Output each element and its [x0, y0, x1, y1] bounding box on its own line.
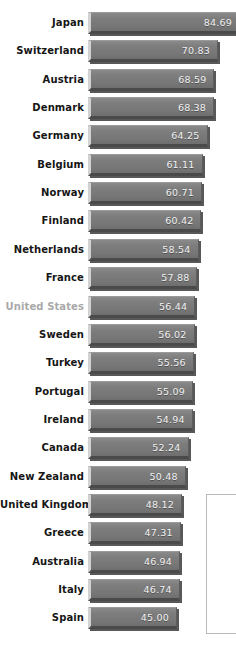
bar-row: Japan84.69	[0, 12, 236, 34]
bar-category-label: Canada	[0, 437, 84, 459]
bar: 58.54	[88, 239, 199, 261]
bar-fill: 55.56	[88, 352, 194, 374]
bar-value-label: 68.59	[178, 70, 206, 88]
bar-fill: 60.42	[88, 210, 201, 232]
bar: 46.74	[88, 579, 180, 601]
bar: 57.88	[88, 267, 197, 289]
bar-category-label: Japan	[0, 12, 84, 34]
bar-category-label: Switzerland	[0, 40, 84, 62]
bar-row: United States56.44	[0, 296, 236, 318]
bar: 68.38	[88, 97, 214, 119]
bar-value-label: 68.38	[178, 98, 206, 116]
bar-row: Australia46.94	[0, 551, 236, 573]
bar-row: Turkey55.56	[0, 352, 236, 374]
bar-value-label: 46.74	[144, 580, 172, 598]
bar: 70.83	[88, 40, 218, 62]
bar-row: Austria68.59	[0, 69, 236, 91]
bar-category-label: France	[0, 267, 84, 289]
bar-value-label: 61.11	[166, 155, 194, 173]
bar-fill: 68.38	[88, 97, 214, 119]
bar-row: Germany64.25	[0, 125, 236, 147]
bar-fill: 47.31	[88, 522, 181, 544]
bar: 48.12	[88, 494, 182, 516]
bar: 60.42	[88, 210, 201, 232]
bar: 54.94	[88, 409, 193, 431]
bar-value-label: 70.83	[182, 41, 210, 59]
bar-value-label: 47.31	[144, 523, 172, 541]
bar-row: United Kingdom48.12	[0, 494, 236, 516]
bar-fill: 56.02	[88, 324, 195, 346]
bar-category-label: Netherlands	[0, 239, 84, 261]
bar-category-label: Germany	[0, 125, 84, 147]
bar-category-label: Sweden	[0, 324, 84, 346]
bar-row: Finland60.42	[0, 210, 236, 232]
bar-value-label: 58.54	[162, 240, 190, 258]
bar-category-label: Italy	[0, 579, 84, 601]
bar-row: Italy46.74	[0, 579, 236, 601]
bar: 47.31	[88, 522, 181, 544]
bar-row: Belgium61.11	[0, 154, 236, 176]
bar-category-label: Belgium	[0, 154, 84, 176]
bar-fill: 70.83	[88, 40, 218, 62]
bar-value-label: 84.69	[204, 13, 232, 31]
bar-fill: 84.69	[88, 12, 236, 34]
bar-fill: 48.12	[88, 494, 182, 516]
bar-fill: 46.74	[88, 579, 180, 601]
bar-row: Netherlands58.54	[0, 239, 236, 261]
bar-fill: 57.88	[88, 267, 197, 289]
bar-row: Greece47.31	[0, 522, 236, 544]
bar-row: Spain45.00	[0, 607, 236, 629]
bar: 68.59	[88, 69, 214, 91]
bar: 45.00	[88, 607, 177, 629]
bar-category-label: Denmark	[0, 97, 84, 119]
bar-row: New Zealand50.48	[0, 466, 236, 488]
bar: 60.71	[88, 182, 202, 204]
bar-row: France57.88	[0, 267, 236, 289]
bar-fill: 56.44	[88, 296, 195, 318]
bar-row: Denmark68.38	[0, 97, 236, 119]
bar-category-label: Greece	[0, 522, 84, 544]
bar-fill: 54.94	[88, 409, 193, 431]
bar-value-label: 50.48	[150, 467, 178, 485]
bar-fill: 52.24	[88, 437, 189, 459]
bar: 52.24	[88, 437, 189, 459]
bar-category-label: Austria	[0, 69, 84, 91]
bar-row: Portugal55.09	[0, 381, 236, 403]
bar-value-label: 56.44	[159, 297, 187, 315]
bar-fill: 55.09	[88, 381, 193, 403]
bar-category-label: Finland	[0, 210, 84, 232]
bar: 46.94	[88, 551, 180, 573]
bar-value-label: 48.12	[146, 495, 174, 513]
bar-value-label: 55.09	[157, 382, 185, 400]
bar-value-label: 57.88	[161, 268, 189, 286]
bar-category-label: United States	[0, 296, 84, 318]
bar-category-label: Turkey	[0, 352, 84, 374]
bar-row: Canada52.24	[0, 437, 236, 459]
bar-category-label: Australia	[0, 551, 84, 573]
bar-value-label: 60.42	[165, 211, 193, 229]
bar-row: Ireland54.94	[0, 409, 236, 431]
bar: 84.69	[88, 12, 236, 34]
bar-category-label: Ireland	[0, 409, 84, 431]
bar-value-label: 52.24	[152, 438, 180, 456]
bar-fill: 68.59	[88, 69, 214, 91]
bar-fill: 58.54	[88, 239, 199, 261]
bar-row: Switzerland70.83	[0, 40, 236, 62]
bar-row: Norway60.71	[0, 182, 236, 204]
bar: 55.09	[88, 381, 193, 403]
bar-category-label: Norway	[0, 182, 84, 204]
bar-value-label: 54.94	[157, 410, 185, 428]
bar-value-label: 60.71	[166, 183, 194, 201]
bar-value-label: 46.94	[144, 552, 172, 570]
bar-value-label: 55.56	[158, 353, 186, 371]
bar: 56.44	[88, 296, 195, 318]
bar-category-label: Portugal	[0, 381, 84, 403]
bar-row: Sweden56.02	[0, 324, 236, 346]
bar-fill: 60.71	[88, 182, 202, 204]
bar-value-label: 64.25	[171, 126, 199, 144]
bar-fill: 50.48	[88, 466, 186, 488]
bar: 50.48	[88, 466, 186, 488]
horizontal-bar-chart: Japan84.69Switzerland70.83Austria68.59De…	[0, 0, 236, 660]
bar-category-label: New Zealand	[0, 466, 84, 488]
bar-fill: 61.11	[88, 154, 203, 176]
